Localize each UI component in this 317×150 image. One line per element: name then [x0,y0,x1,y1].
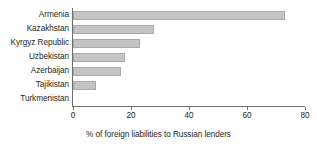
x-tick-mark [305,107,306,110]
category-label: Turkmenistan [0,94,69,103]
bar [73,81,96,90]
bar-row [73,53,305,62]
bar-row [73,11,305,20]
x-tick-label: 80 [293,111,317,121]
bar [73,11,285,20]
category-label: Azerbaijan [0,66,69,75]
plot-area [73,8,305,106]
category-axis-labels: ArmeniaKazakhstanKyrgyz RepublicUzbekist… [0,8,69,106]
bar-row [73,95,305,104]
x-axis-title: % of foreign liabilities to Russian lend… [0,130,317,140]
bar-chart: ArmeniaKazakhstanKyrgyz RepublicUzbekist… [0,0,317,150]
bar-row [73,67,305,76]
x-tick-mark [189,107,190,110]
x-tick-label: 40 [177,111,201,121]
category-label: Armenia [0,10,69,19]
bar [73,67,121,76]
x-tick-mark [131,107,132,110]
x-tick-mark [247,107,248,110]
bar [73,25,154,34]
x-tick-label: 20 [119,111,143,121]
x-tick-label: 0 [61,111,85,121]
bar-row [73,81,305,90]
x-tick-mark [73,107,74,110]
bar [73,39,140,48]
category-label: Kazakhstan [0,24,69,33]
bar-row [73,39,305,48]
x-tick-label: 60 [235,111,259,121]
y-axis-line [72,8,73,107]
category-label: Uzbekistan [0,52,69,61]
bar [73,53,125,62]
category-label: Kyrgyz Republic [0,38,69,47]
bar-row [73,25,305,34]
category-label: Tajikistan [0,80,69,89]
